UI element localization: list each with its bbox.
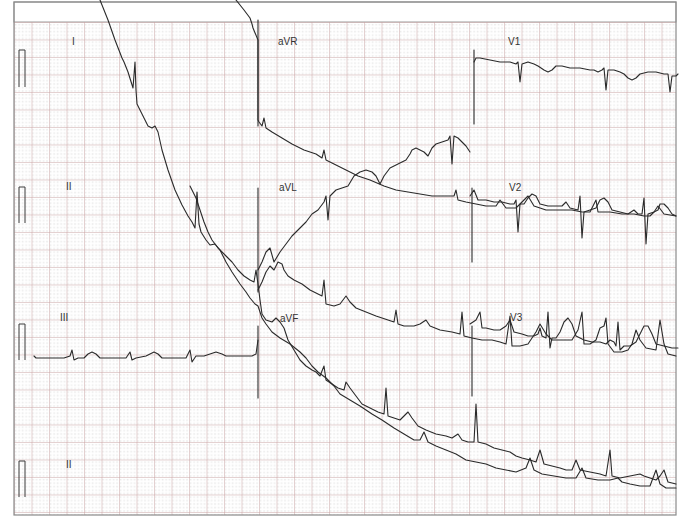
- ecg-chart: IaVRV1IIaVLV2IIIaVFV3II: [0, 0, 683, 530]
- lead-label: II: [66, 181, 72, 192]
- grid-area: [14, 22, 676, 515]
- lead-label: III: [60, 312, 68, 323]
- lead-label: aVR: [278, 36, 297, 47]
- lead-label: aVF: [280, 313, 298, 324]
- lead-label: I: [72, 36, 75, 47]
- lead-label: V1: [508, 36, 521, 47]
- header-band: [14, 2, 676, 22]
- lead-label: V3: [510, 312, 523, 323]
- lead-label: aVL: [279, 182, 297, 193]
- lead-label: V2: [509, 182, 522, 193]
- lead-label: II: [66, 459, 72, 470]
